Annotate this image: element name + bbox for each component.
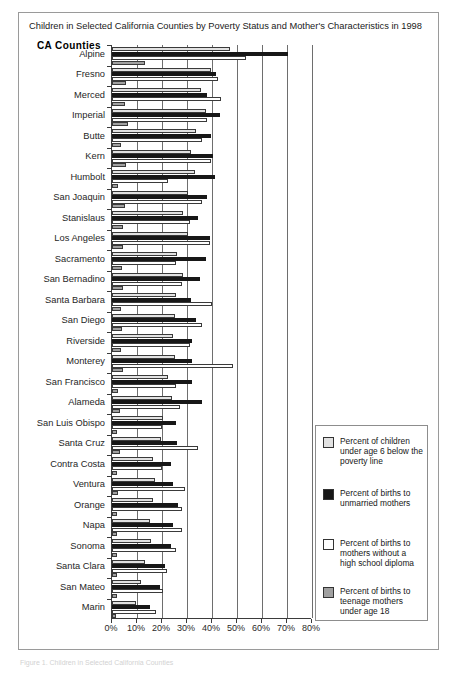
bar xyxy=(112,519,150,523)
x-axis-tick xyxy=(111,619,112,623)
axis-tick xyxy=(107,599,112,600)
chart-legend: Percent of children under age 6 below th… xyxy=(315,425,428,621)
x-axis-tick xyxy=(136,619,137,623)
bar xyxy=(112,241,210,245)
bar xyxy=(112,421,176,425)
x-tick-label-30: 30% xyxy=(177,623,195,633)
axis-tick xyxy=(107,86,112,87)
axis-tick xyxy=(107,373,112,374)
bar xyxy=(112,102,125,106)
bar xyxy=(112,314,175,318)
category-label-san-joaquin: San Joaquin xyxy=(53,192,105,202)
bar-group xyxy=(112,332,311,353)
bar xyxy=(112,175,215,179)
bar-group xyxy=(112,517,311,538)
bar xyxy=(112,491,118,495)
axis-tick xyxy=(107,435,112,436)
legend-swatch-icon xyxy=(323,489,334,500)
bar xyxy=(112,487,185,491)
category-label-humbolt: Humbolt xyxy=(70,172,105,182)
x-tick-label-10: 10% xyxy=(127,623,145,633)
bar xyxy=(112,400,202,404)
bar-group xyxy=(112,476,311,497)
bar xyxy=(112,154,213,158)
bar xyxy=(112,589,163,593)
bar xyxy=(112,113,220,117)
bar xyxy=(112,441,177,445)
category-label-imperial: Imperial xyxy=(72,110,105,120)
category-label-marin: Marin xyxy=(82,602,105,612)
bar xyxy=(112,307,121,311)
bar xyxy=(112,184,118,188)
bar-group xyxy=(112,230,311,251)
bar xyxy=(112,150,191,154)
bar xyxy=(112,528,182,532)
bar xyxy=(112,375,168,379)
category-label-ventura: Ventura xyxy=(73,479,105,489)
bar xyxy=(112,450,120,454)
axis-tick xyxy=(107,66,112,67)
category-label-contra-costa: Contra Costa xyxy=(50,459,105,469)
bar xyxy=(112,232,188,236)
axis-tick xyxy=(107,291,112,292)
category-label-orange: Orange xyxy=(74,500,105,510)
axis-tick xyxy=(107,189,112,190)
category-label-napa: Napa xyxy=(83,520,105,530)
category-label-monterey: Monterey xyxy=(66,356,105,366)
bar-group xyxy=(112,414,311,435)
legend-swatch-icon xyxy=(323,539,334,550)
x-tick-label-0: 0% xyxy=(104,623,117,633)
bar-group xyxy=(112,66,311,87)
axis-tick xyxy=(107,312,112,313)
x-tick-label-20: 20% xyxy=(152,623,170,633)
legend-item-s2: Percent of births to mothers without a h… xyxy=(323,538,423,569)
bar xyxy=(112,129,196,133)
bar xyxy=(112,318,196,322)
bar xyxy=(112,225,123,229)
legend-swatch-icon xyxy=(323,437,334,448)
bar xyxy=(112,384,176,388)
bar xyxy=(112,585,160,589)
category-label-santa-clara: Santa Clara xyxy=(56,561,105,571)
value-axis-labels: 0%10%20%30%40%50%60%70%80% xyxy=(111,623,321,637)
category-label-santa-barbara: Santa Barbara xyxy=(45,295,105,305)
legend-label: Percent of births to teenage mothers und… xyxy=(340,586,423,617)
axis-tick xyxy=(107,496,112,497)
bar xyxy=(112,170,195,174)
bar xyxy=(112,539,151,543)
bar xyxy=(112,405,180,409)
bar xyxy=(112,286,123,290)
bar xyxy=(112,507,182,511)
axis-tick xyxy=(107,414,112,415)
bar xyxy=(112,478,155,482)
bar xyxy=(112,343,190,347)
category-label-merced: Merced xyxy=(74,90,105,100)
bar xyxy=(112,462,171,466)
bar-group xyxy=(112,455,311,476)
bar xyxy=(112,93,207,97)
bar xyxy=(112,359,192,363)
axis-tick xyxy=(107,127,112,128)
axis-tick xyxy=(107,517,112,518)
bar-group xyxy=(112,394,311,415)
bar-group xyxy=(112,189,311,210)
bar-group xyxy=(112,127,311,148)
category-label-san-luis-obispo: San Luis Obispo xyxy=(37,418,105,428)
bar xyxy=(112,216,198,220)
bar xyxy=(112,409,120,413)
bar xyxy=(112,159,211,163)
plot-area xyxy=(111,45,311,619)
bar xyxy=(112,179,168,183)
x-axis-tick xyxy=(286,619,287,623)
bar xyxy=(112,380,192,384)
bar xyxy=(112,97,221,101)
bar-group xyxy=(112,353,311,374)
bar-group xyxy=(112,435,311,456)
bar xyxy=(112,245,123,249)
bar-group xyxy=(112,209,311,230)
bar xyxy=(112,323,202,327)
bar xyxy=(112,236,210,240)
bar xyxy=(112,293,176,297)
bar xyxy=(112,204,125,208)
bar xyxy=(112,72,216,76)
